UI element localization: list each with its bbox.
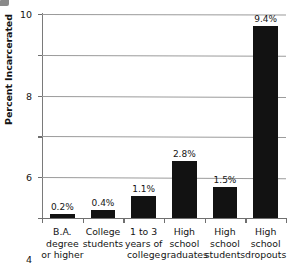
gridline [42,136,286,138]
bar-value-label: 1.5% [214,175,237,185]
bar-value-label: 2.8% [173,149,196,159]
bar-value-label: 9.4% [254,14,277,24]
gridline [42,177,286,179]
y-axis-tick: 8 [38,55,42,56]
bar-value-label: 1.1% [132,184,155,194]
y-axis-title: Percent Incarcerated [3,10,14,130]
y-axis-tick: 2 [38,177,42,178]
y-axis-tick-label: 10 [20,9,32,20]
category-label-line: or higher [38,249,87,261]
bar-value-label: 0.2% [51,202,74,212]
bar-value-label: 0.4% [92,198,115,208]
y-axis-tick: 4 [38,136,42,137]
x-axis-tick [205,218,206,223]
bar: 0.2% [50,214,74,218]
scan-artifact [0,0,9,6]
x-axis-tick [83,218,84,223]
y-axis-tick: 10 [38,14,42,15]
bar: 2.8% [172,161,196,218]
gridline [42,55,286,57]
plot-area: 02468100.2%0.4%1.1%2.8%1.5%9.4% [42,14,286,218]
gridline [42,14,286,16]
category-label-line: school [241,238,290,250]
y-axis-tick-label: 8 [26,90,32,101]
bar: 1.5% [213,187,237,218]
category-label-line: High [241,226,290,238]
x-axis-tick [123,218,124,223]
x-axis-tick [42,218,43,223]
x-axis-category-label: Highschooldropouts [241,226,290,261]
bar: 9.4% [253,26,277,218]
gridline [42,96,286,98]
y-axis-tick-label: 6 [26,172,32,183]
y-axis-tick: 6 [38,96,42,97]
y-axis-tick-label: 4 [26,253,32,264]
bar-chart-figure: Percent Incarcerated 02468100.2%0.4%1.1%… [0,0,293,268]
x-axis-tick [164,218,165,223]
category-label-line: dropouts [241,249,290,261]
x-axis-tick [286,218,287,223]
x-axis-tick [245,218,246,223]
bar: 1.1% [131,196,155,218]
bar: 0.4% [91,210,115,218]
